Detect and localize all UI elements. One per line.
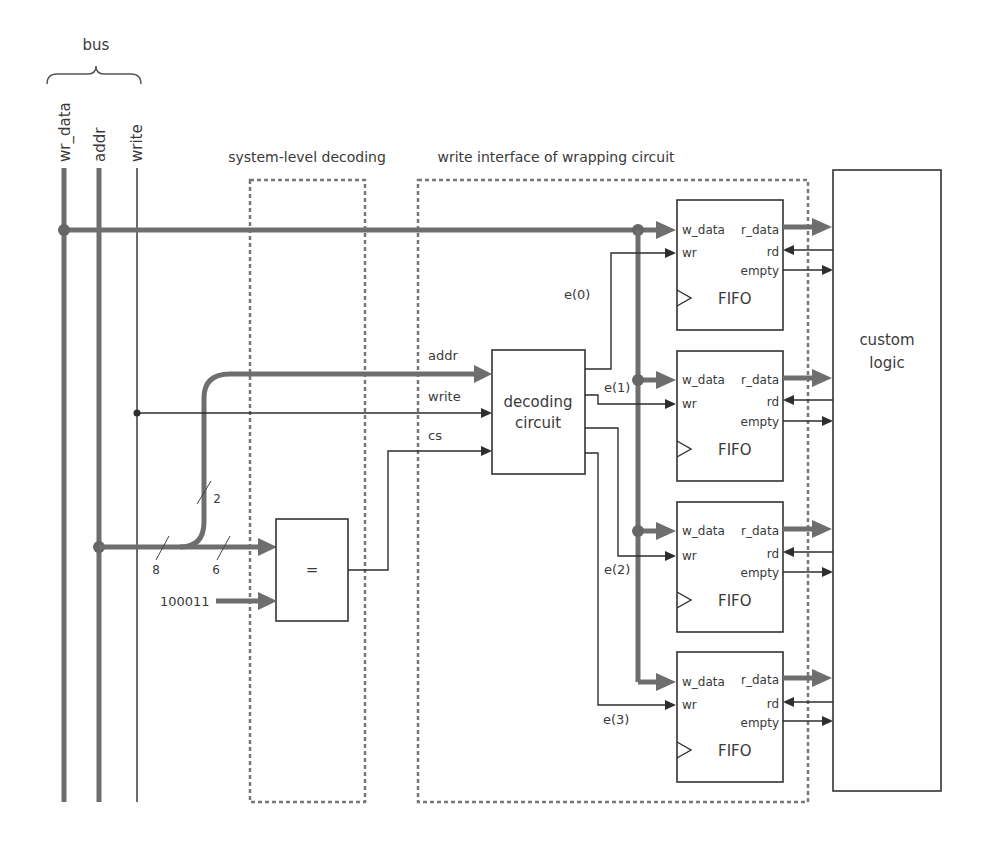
width-label-2: 2	[213, 492, 221, 506]
custom-logic-label-line1: custom	[859, 331, 914, 349]
write-wiring: write	[134, 389, 493, 418]
comparator-constant-label: 100011	[160, 594, 210, 609]
decoder-input-write-label: write	[428, 389, 461, 404]
fifo-label: FIFO	[718, 441, 752, 459]
decoder-input-cs-label: cs	[428, 428, 442, 443]
fifo-port-empty: empty	[741, 415, 780, 429]
fifo-port-empty: empty	[741, 716, 780, 730]
decoder-input-addr-label: addr	[428, 348, 458, 363]
fifo-label: FIFO	[718, 592, 752, 610]
fifo-label: FIFO	[718, 742, 752, 760]
fifo-1: w_data wr r_data rd empty FIFO	[677, 351, 783, 481]
write-interface-title: write interface of wrapping circuit	[437, 149, 675, 165]
decoding-circuit: decoding circuit e(0) e(1) e(2) e(3)	[492, 248, 676, 727]
fifo-port-w-data: w_data	[682, 373, 725, 387]
fifo-port-rd: rd	[767, 245, 779, 259]
fifo-port-w-data: w_data	[682, 675, 725, 689]
system-level-dashed-box	[250, 180, 365, 802]
fifo-port-wr: wr	[682, 397, 697, 411]
comparator-symbol: =	[306, 561, 319, 579]
junction-dot	[632, 525, 644, 537]
system-level-title: system-level decoding	[228, 149, 386, 165]
bus-signal-addr-label: addr	[91, 127, 109, 162]
enable-e2-label: e(2)	[604, 562, 630, 577]
bus-brace	[47, 66, 141, 84]
fifo-label: FIFO	[718, 290, 752, 308]
fifo-port-empty: empty	[741, 264, 780, 278]
fifo-port-r-data: r_data	[741, 673, 779, 687]
bus-label: bus	[83, 36, 110, 54]
width-label-8: 8	[152, 563, 160, 577]
comparator: = 100011 cs	[160, 428, 492, 621]
custom-logic-box	[833, 170, 941, 791]
fifo-port-r-data: r_data	[741, 223, 779, 237]
fifo-port-w-data: w_data	[682, 223, 725, 237]
junction-dot	[58, 224, 70, 236]
fifo-port-rd: rd	[767, 547, 779, 561]
custom-logic: custom logic	[833, 170, 941, 791]
bus-group: bus wr_data addr write	[47, 36, 146, 802]
bus-signal-wr-data-label: wr_data	[56, 102, 75, 162]
junction-dot	[632, 374, 644, 386]
decoding-circuit-label-line2: circuit	[515, 414, 561, 432]
fifo-port-empty: empty	[741, 566, 780, 580]
fifo-port-w-data: w_data	[682, 524, 725, 538]
custom-logic-label-line2: logic	[869, 354, 904, 372]
fifo-port-rd: rd	[767, 395, 779, 409]
enable-e3-label: e(3)	[603, 712, 629, 727]
decoding-circuit-label-line1: decoding	[504, 393, 573, 411]
fifo-2: w_data wr r_data rd empty FIFO	[677, 502, 783, 632]
system-level-region: system-level decoding	[228, 149, 386, 802]
fifo-port-wr: wr	[682, 549, 697, 563]
fifo-wrapper-diagram: bus wr_data addr write system-level deco…	[0, 0, 989, 844]
fifo-port-r-data: r_data	[741, 524, 779, 538]
fifo-3: w_data wr r_data rd empty FIFO	[677, 652, 783, 782]
fifo-0: w_data wr r_data rd empty FIFO	[677, 200, 783, 330]
fifo-port-r-data: r_data	[741, 373, 779, 387]
fifo-port-wr: wr	[682, 698, 697, 712]
decoding-circuit-box	[492, 350, 585, 474]
width-label-6: 6	[212, 563, 220, 577]
fifo-port-wr: wr	[682, 246, 697, 260]
enable-e0-label: e(0)	[564, 287, 590, 302]
bus-signal-write-label: write	[128, 124, 146, 162]
enable-e1-label: e(1)	[604, 380, 630, 395]
fifo-port-rd: rd	[767, 697, 779, 711]
